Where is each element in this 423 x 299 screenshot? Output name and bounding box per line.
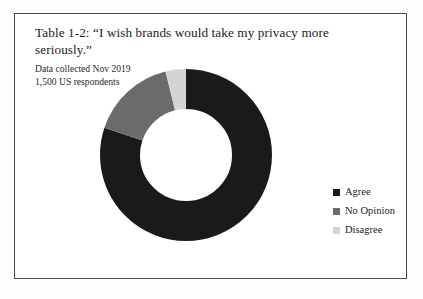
legend-swatch-no-opinion (333, 208, 340, 215)
legend-label-no-opinion: No Opinion (345, 205, 395, 217)
legend-swatch-agree (333, 189, 340, 196)
page-background: Table 1-2: “I wish brands would take my … (0, 0, 423, 299)
legend-item-agree[interactable]: Agree (333, 184, 405, 200)
donut-svg (80, 49, 292, 261)
legend-swatch-disagree (333, 227, 340, 234)
legend-label-disagree: Disagree (345, 224, 382, 236)
chart-legend: Agree No Opinion Disagree (333, 184, 405, 241)
chart-area: Agree No Opinion Disagree (15, 14, 408, 280)
donut-chart (80, 49, 292, 261)
legend-item-no-opinion[interactable]: No Opinion (333, 203, 405, 219)
legend-label-agree: Agree (345, 186, 371, 198)
figure-frame: Table 1-2: “I wish brands would take my … (14, 13, 407, 279)
legend-item-disagree[interactable]: Disagree (333, 222, 405, 238)
